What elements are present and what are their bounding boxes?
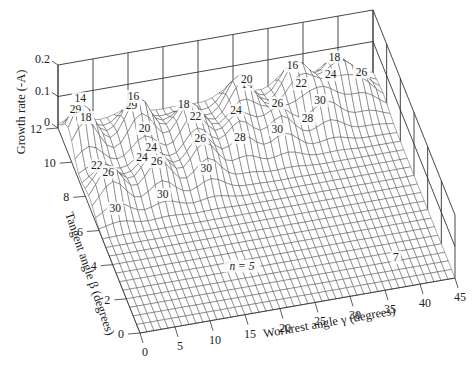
peak-label: 24: [325, 68, 337, 80]
x-tick-label: 0: [142, 345, 148, 359]
y-tick-label: 10: [44, 156, 56, 170]
peak-label: 26: [103, 166, 115, 178]
z-tick: [52, 93, 58, 97]
back-wall-gridline: [58, 10, 373, 65]
x-tick: [280, 309, 283, 319]
x-tick: [245, 315, 248, 325]
x-tick-label: 5: [177, 339, 183, 353]
x-tick-label: 10: [209, 333, 221, 347]
y-tick: [114, 299, 126, 300]
peak-label: 26: [194, 132, 206, 144]
peak-label: 24: [230, 104, 242, 116]
peak-label: 28: [302, 112, 314, 124]
x-tick: [455, 278, 458, 288]
z-tick-label: 0.1: [35, 84, 50, 98]
y-tick: [60, 162, 72, 163]
y-tick: [73, 196, 85, 197]
peak-label: 14: [74, 92, 86, 104]
peak-label: 30: [109, 202, 121, 214]
peak-label: 28: [234, 131, 246, 143]
peak-label: 20: [139, 122, 151, 134]
y-tick: [87, 231, 99, 232]
peak-label: 26: [151, 155, 163, 167]
annotation-label: 7: [393, 251, 399, 263]
z-tick: [52, 124, 58, 128]
y-tick: [128, 333, 140, 334]
surface-chart: 2914182226302916202424263018222630142024…: [0, 0, 473, 370]
annotation-label: n = 5: [229, 260, 254, 272]
z-axis-label: Growth rate (-A): [14, 70, 28, 155]
x-tick-label: 40: [419, 296, 431, 310]
x-tick: [140, 333, 143, 343]
x-tick: [420, 284, 423, 294]
peak-label: 24: [136, 151, 148, 163]
peak-label: 26: [272, 97, 284, 109]
peak-label: 18: [80, 111, 92, 123]
peak-label: 16: [287, 59, 299, 71]
x-tick: [210, 321, 213, 331]
peak-label: 26: [356, 66, 368, 78]
y-tick-label: 12: [30, 122, 42, 136]
peak-label: 22: [190, 110, 202, 122]
y-tick-label: 0: [118, 327, 124, 341]
y-tick-label: 8: [63, 190, 69, 204]
peak-label: 20: [241, 73, 253, 85]
x-tick: [385, 290, 388, 300]
x-tick-label: 15: [244, 327, 256, 341]
peak-label: 18: [329, 51, 341, 63]
peak-label: 30: [271, 123, 283, 135]
peak-label: 30: [201, 162, 213, 174]
peak-label: 18: [178, 98, 190, 110]
x-tick-label: 45: [454, 290, 466, 304]
z-tick-label: 0: [44, 115, 50, 129]
x-tick: [315, 302, 318, 312]
y-tick: [101, 265, 113, 266]
z-tick-label: 0.2: [35, 52, 50, 66]
z-tick: [52, 61, 58, 65]
x-tick: [175, 327, 178, 337]
peak-label: 16: [128, 90, 140, 102]
peak-label: 30: [157, 188, 169, 200]
peak-label: 30: [314, 94, 326, 106]
x-tick: [350, 296, 353, 306]
peak-label: 22: [296, 77, 308, 89]
